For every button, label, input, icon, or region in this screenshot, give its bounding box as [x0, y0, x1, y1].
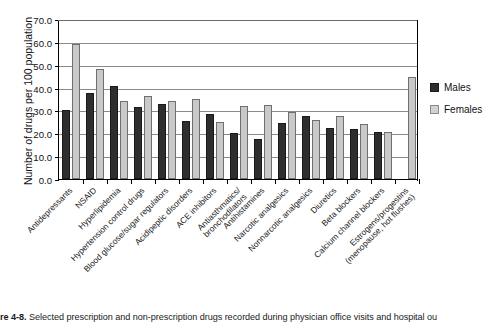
- y-tick-label: 20.0: [8, 129, 52, 140]
- bar-group: [227, 20, 251, 179]
- legend-swatch-females-icon: [430, 105, 439, 114]
- bar-group: [251, 20, 275, 179]
- bar-females: [288, 112, 297, 179]
- bar-group: [203, 20, 227, 179]
- bar-females: [408, 77, 417, 179]
- bar-group: [371, 20, 395, 179]
- legend-swatch-males-icon: [430, 83, 439, 92]
- y-tick-label: 40.0: [8, 83, 52, 94]
- bar-group: [347, 20, 371, 179]
- bar-females: [264, 105, 273, 179]
- bar-males: [230, 133, 239, 179]
- plot-area: [58, 20, 418, 180]
- legend-label-females: Females: [444, 104, 482, 115]
- bar-group: [107, 20, 131, 179]
- y-tick-mark: [55, 180, 59, 181]
- bar-males: [86, 93, 95, 179]
- chart-legend: Males Females: [430, 82, 482, 126]
- bar-group: [59, 20, 83, 179]
- bar-group: [155, 20, 179, 179]
- bar-group: [179, 20, 203, 179]
- bar-males: [326, 128, 335, 179]
- y-tick-label: 30.0: [8, 106, 52, 117]
- bar-males: [110, 86, 119, 179]
- bar-group: [323, 20, 347, 179]
- y-tick-label: 10.0: [8, 152, 52, 163]
- bar-group: [275, 20, 299, 179]
- plot-right-border: [417, 20, 418, 181]
- x-tick-label: Antidepressants: [26, 186, 75, 235]
- x-tick-label-line: Antidepressants: [26, 186, 75, 235]
- bar-group: [395, 20, 419, 179]
- y-tick-label: 60.0: [8, 37, 52, 48]
- x-axis-tick-labels: AntidepressantsNSAIDHyperlipidemiaHypert…: [0, 183, 494, 301]
- bar-group: [299, 20, 323, 179]
- bar-females: [336, 116, 345, 179]
- legend-item-males: Males: [430, 82, 482, 93]
- figure-caption: re 4-8. Selected prescription and non-pr…: [0, 312, 494, 322]
- legend-item-females: Females: [430, 104, 482, 115]
- x-tick-label-line: (menopause, hot flushes): [344, 192, 417, 265]
- legend-label-males: Males: [444, 82, 471, 93]
- y-tick-label: 70.0: [8, 15, 52, 26]
- bar-females: [72, 44, 81, 179]
- bar-females: [168, 101, 177, 179]
- figure-caption-label: re 4-8.: [0, 312, 26, 322]
- bar-males: [206, 114, 215, 179]
- bar-males: [254, 139, 263, 179]
- bar-males: [158, 104, 167, 179]
- bar-females: [240, 106, 249, 179]
- figure-container: Number of drugs per 100 population 0.010…: [0, 0, 494, 329]
- bar-males: [374, 132, 383, 179]
- bar-females: [216, 122, 225, 179]
- bar-females: [144, 96, 153, 179]
- bar-males: [62, 110, 71, 179]
- bar-males: [350, 129, 359, 179]
- bar-males: [182, 121, 191, 179]
- plot-top-border: [58, 20, 418, 21]
- bar-males: [302, 116, 311, 179]
- bar-males: [278, 123, 287, 179]
- bar-females: [96, 69, 105, 179]
- bar-females: [360, 124, 369, 179]
- bar-group: [131, 20, 155, 179]
- bar-series-container: [59, 20, 418, 179]
- bar-females: [192, 99, 201, 179]
- bar-group: [83, 20, 107, 179]
- figure-caption-text: Selected prescription and non-prescripti…: [29, 312, 437, 322]
- bar-females: [120, 101, 129, 179]
- bar-females: [384, 132, 393, 179]
- bar-males: [134, 107, 143, 179]
- y-tick-label: 50.0: [8, 60, 52, 71]
- bar-females: [312, 120, 321, 179]
